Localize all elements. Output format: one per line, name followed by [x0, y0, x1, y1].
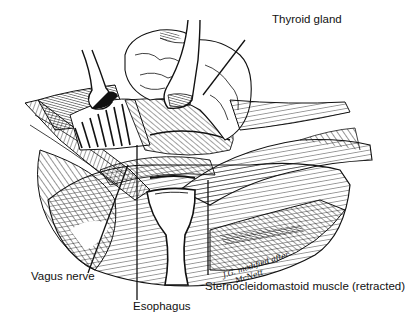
- label-esophagus: Esophagus: [133, 301, 191, 313]
- anatomical-illustration: Thyroid gland Vagus nerve Esophagus Ster…: [0, 0, 405, 329]
- label-thyroid-gland: Thyroid gland: [272, 14, 342, 26]
- label-vagus-nerve: Vagus nerve: [31, 271, 95, 283]
